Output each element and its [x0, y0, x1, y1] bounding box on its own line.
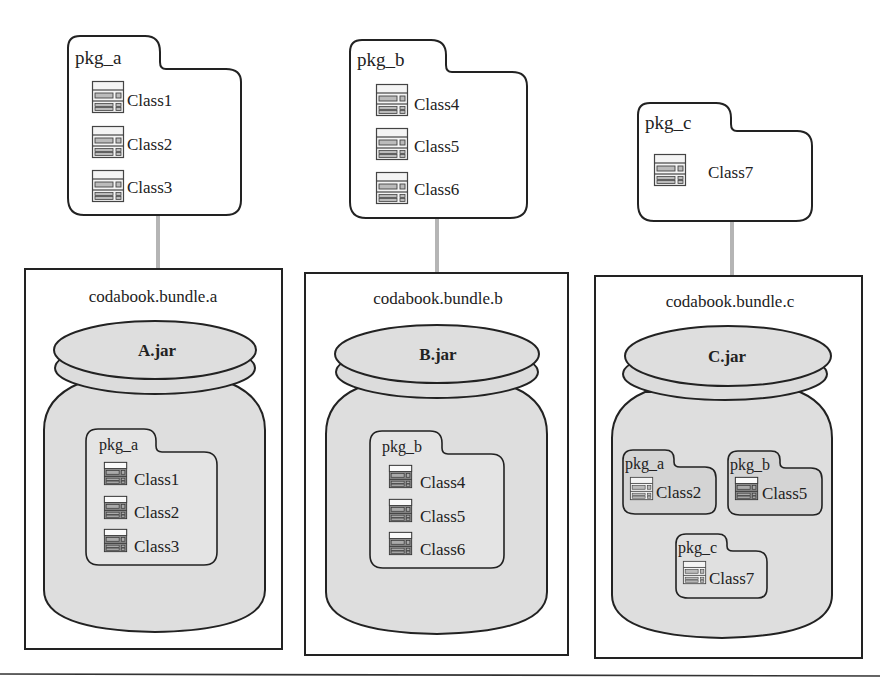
class-name: Class2 [134, 503, 179, 522]
top-package-b[interactable]: pkg_b Class4 Class5 Class6 [350, 40, 527, 218]
bundle-package-diagram: pkg_a Class1 Class2 Class3 pkg_b Class4 … [0, 0, 880, 680]
package-name: pkg_a [625, 455, 664, 473]
class-name: Class2 [127, 135, 172, 154]
class-name: Class3 [134, 537, 179, 556]
bottom-divider [0, 674, 880, 676]
class-icon [377, 173, 408, 204]
bundle-a[interactable]: codabook.bundle.a A.jar pkg_a Class1 Cla… [25, 269, 282, 649]
jar-name: C.jar [708, 347, 747, 366]
class-icon [389, 499, 411, 521]
class-icon [104, 529, 126, 551]
class-icon [389, 465, 411, 487]
class-name: Class5 [420, 507, 465, 526]
class-icon [93, 82, 124, 113]
class-name: Class4 [414, 95, 460, 114]
bundle-name: codabook.bundle.a [89, 287, 218, 306]
class-name: Class7 [708, 163, 754, 182]
top-package-c[interactable]: pkg_c Class7 [638, 103, 812, 221]
bundle-b[interactable]: codabook.bundle.b B.jar pkg_b Class4 Cla… [305, 273, 568, 655]
package-name: pkg_c [678, 539, 717, 557]
class-icon [377, 129, 408, 160]
package-name: pkg_c [645, 112, 691, 133]
class-name: Class7 [709, 569, 755, 588]
bundle-c[interactable]: codabook.bundle.c C.jar pkg_a Class2 pkg… [595, 276, 862, 658]
package-name: pkg_a [75, 47, 122, 68]
class-name: Class6 [420, 540, 465, 559]
class-name: Class1 [134, 470, 179, 489]
class-icon [683, 561, 705, 583]
jar-name: B.jar [419, 345, 457, 364]
class-name: Class5 [414, 137, 459, 156]
class-icon [655, 155, 686, 186]
class-name: Class1 [127, 91, 172, 110]
bundle-name: codabook.bundle.c [666, 292, 795, 311]
class-icon [93, 171, 124, 202]
class-name: Class4 [420, 473, 466, 492]
class-icon [104, 462, 126, 484]
class-icon [377, 85, 408, 116]
package-name: pkg_b [730, 456, 770, 474]
jar-name: A.jar [138, 341, 177, 360]
top-package-a[interactable]: pkg_a Class1 Class2 Class3 [68, 36, 241, 215]
class-name: Class3 [127, 178, 172, 197]
package-name: pkg_b [382, 438, 422, 456]
class-name: Class6 [414, 180, 459, 199]
class-icon [104, 496, 126, 518]
class-icon [93, 127, 124, 158]
class-name: Class5 [762, 484, 807, 503]
bundle-name: codabook.bundle.b [373, 289, 502, 308]
package-name: pkg_b [357, 49, 405, 70]
class-icon [389, 532, 411, 554]
class-name: Class2 [656, 483, 701, 502]
class-icon [630, 477, 652, 499]
class-icon [735, 477, 757, 499]
package-name: pkg_a [99, 436, 138, 454]
